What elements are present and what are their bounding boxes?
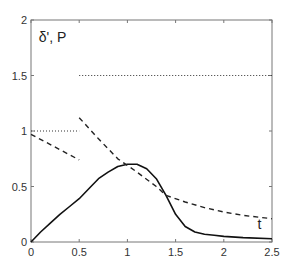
x-tick-label: 1 (124, 246, 130, 258)
y-tick-label: 1 (21, 125, 27, 137)
y-tick-label: 1.5 (12, 70, 27, 82)
x-tick-label: 0 (28, 246, 34, 258)
y-axis-label: δ', P (39, 29, 67, 45)
x-tick-label: 2 (221, 246, 227, 258)
series-dashed-line (79, 118, 272, 219)
y-tick-label: 0.5 (12, 181, 27, 193)
y-tick-label: 2 (21, 14, 27, 26)
line-chart: 00.511.522.500.511.52 δ', P t (0, 0, 294, 271)
x-axis-label: t (258, 216, 262, 232)
chart-series (31, 76, 272, 243)
x-tick-label: 1.5 (168, 246, 183, 258)
x-tick-label: 2.5 (264, 246, 279, 258)
series-dashed-line (31, 134, 79, 160)
series-solid-line (31, 164, 272, 242)
x-tick-label: 0.5 (72, 246, 87, 258)
y-tick-label: 0 (21, 236, 27, 248)
